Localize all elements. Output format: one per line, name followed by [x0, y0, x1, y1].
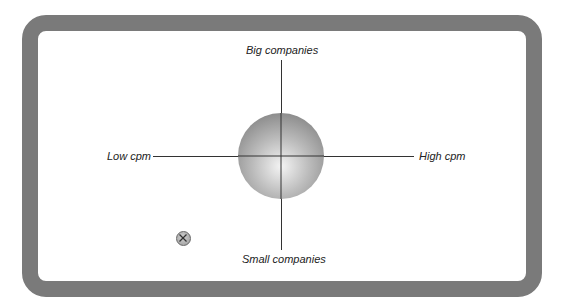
- label-small-companies: Small companies: [242, 253, 326, 265]
- label-big-companies: Big companies: [246, 44, 318, 56]
- label-low-cpm: Low cpm: [107, 150, 151, 162]
- label-high-cpm: High cpm: [419, 150, 465, 162]
